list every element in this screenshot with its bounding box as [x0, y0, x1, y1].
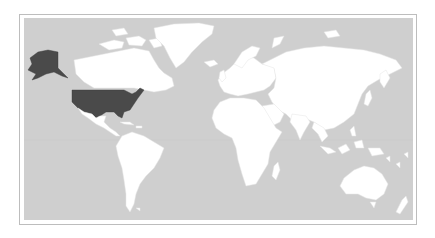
country-greenland: [154, 23, 214, 68]
country-madagascar: [272, 162, 280, 180]
country-usa-alaska[interactable]: [28, 50, 68, 80]
continent-asia[interactable]: [262, 46, 402, 130]
world-map[interactable]: [24, 18, 413, 220]
region-tasmania: [370, 202, 376, 208]
region-indonesia: [320, 126, 384, 156]
continent-south-america[interactable]: [116, 132, 164, 212]
world-map-svg: [24, 18, 413, 220]
country-canada-islands: [99, 28, 162, 50]
country-japan: [364, 90, 372, 106]
region-pacific-islands: [386, 152, 408, 168]
region-caribbean: [120, 122, 142, 128]
country-australia[interactable]: [340, 166, 388, 200]
country-iceland: [204, 60, 218, 67]
region-novaya-zemlya: [272, 30, 340, 48]
region-falklands: [136, 208, 140, 211]
country-new-zealand: [396, 196, 408, 214]
country-india[interactable]: [290, 114, 310, 140]
country-canada[interactable]: [74, 48, 174, 92]
